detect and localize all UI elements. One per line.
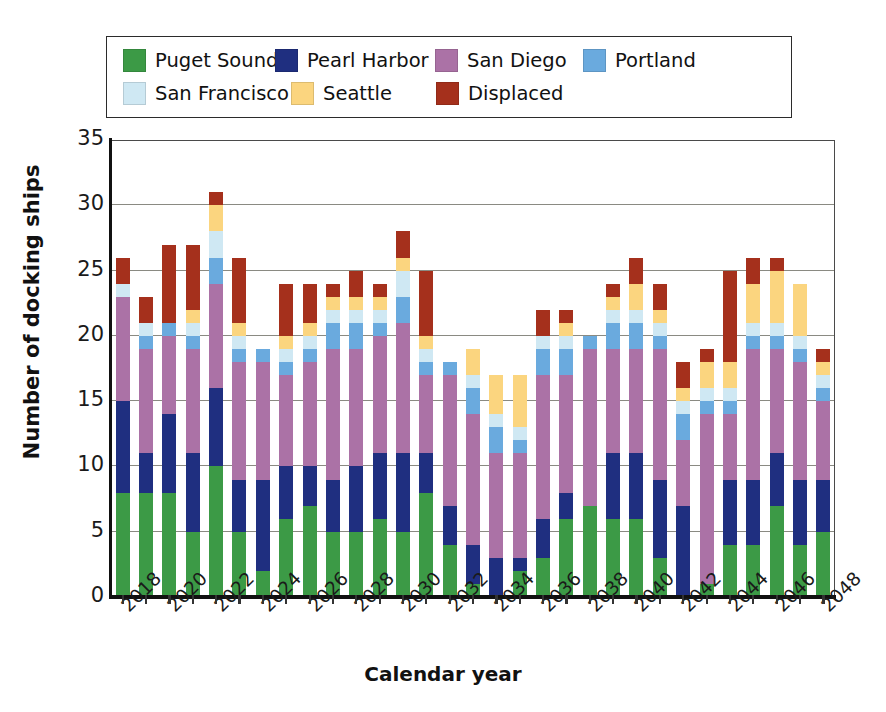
bar-2027[interactable] [326,284,340,597]
legend-item-seattle[interactable]: Seattle [291,82,436,105]
bar-segment-portland [186,336,200,349]
bar-segment-san-diego [653,349,667,480]
bar-segment-san-diego [746,349,760,480]
x-tick-mark [122,595,124,604]
bar-segment-san-francisco [116,284,130,297]
bar-segment-san-francisco [606,310,620,323]
bar-segment-displaced [279,284,293,336]
bar-2037[interactable] [559,310,573,597]
y-tick-label: 5 [60,518,104,542]
bar-2034[interactable] [489,375,503,597]
bar-2043[interactable] [700,349,714,597]
legend-item-puget-sound[interactable]: Puget Sound [123,49,275,72]
bar-2041[interactable] [653,284,667,597]
bar-segment-pearl-harbor [303,466,317,505]
bar-2028[interactable] [349,271,363,597]
x-tick-mark [449,595,451,604]
bar-segment-san-diego [816,401,830,479]
bar-2040[interactable] [629,258,643,597]
bar-segment-san-francisco [676,401,690,414]
y-tick-label: 10 [60,452,104,476]
bar-segment-san-diego [279,375,293,466]
bar-2021[interactable] [186,245,200,597]
bar-2022[interactable] [209,192,223,597]
y-tick-label: 20 [60,322,104,346]
bar-segment-san-diego [209,284,223,388]
bar-2023[interactable] [232,258,246,597]
bar-segment-displaced [139,297,153,323]
bar-2033[interactable] [466,349,480,597]
bar-segment-san-diego [489,453,503,557]
legend-swatch-icon [123,49,146,72]
legend-item-san-francisco[interactable]: San Francisco [123,82,291,105]
x-tick-mark [192,595,194,604]
bar-segment-san-diego [373,336,387,454]
bar-segment-portland [396,297,410,323]
bar-segment-pearl-harbor [653,480,667,558]
bar-2020[interactable] [162,245,176,597]
bar-2032[interactable] [443,362,457,597]
bar-segment-pearl-harbor [606,453,620,518]
bar-segment-san-francisco [419,349,433,362]
bar-segment-displaced [419,271,433,336]
x-tick-mark [425,595,427,604]
bar-2025[interactable] [279,284,293,597]
bar-segment-pearl-harbor [676,506,690,597]
bar-segment-portland [326,323,340,349]
bar-segment-portland [653,336,667,349]
x-tick-mark [262,595,264,604]
bar-segment-pearl-harbor [536,519,550,558]
bar-segment-displaced [816,349,830,362]
legend-label: Puget Sound [155,49,278,72]
legend-item-portland[interactable]: Portland [583,49,696,72]
bar-segment-portland [746,336,760,349]
bar-segment-seattle [816,362,830,375]
legend-item-displaced[interactable]: Displaced [436,82,563,105]
bar-2018[interactable] [116,258,130,597]
x-tick-mark [215,595,217,604]
x-tick-mark [612,595,614,604]
bar-2026[interactable] [303,284,317,597]
bar-2046[interactable] [770,258,784,597]
bar-segment-pearl-harbor [443,506,457,545]
bar-segment-san-francisco [466,375,480,388]
bar-segment-san-francisco [723,388,737,401]
bar-segment-pearl-harbor [186,453,200,531]
x-tick-mark [379,595,381,604]
bar-2029[interactable] [373,284,387,597]
bar-segment-seattle [723,362,737,388]
x-tick-mark [589,595,591,604]
bar-2019[interactable] [139,297,153,597]
bar-2039[interactable] [606,284,620,597]
bar-segment-pearl-harbor [139,453,153,492]
bar-2047[interactable] [793,284,807,597]
x-tick-mark [495,595,497,604]
bar-segment-seattle [653,310,667,323]
bar-2044[interactable] [723,271,737,597]
bar-2030[interactable] [396,231,410,597]
bar-segment-seattle [186,310,200,323]
bar-segment-pearl-harbor [162,414,176,492]
bar-2035[interactable] [513,375,527,597]
chart-legend: Puget SoundPearl HarborSan DiegoPortland… [106,36,792,118]
bar-2038[interactable] [583,336,597,597]
bar-segment-pearl-harbor [723,480,737,545]
bar-2024[interactable] [256,349,270,597]
bar-segment-portland [232,349,246,362]
bar-segment-seattle [606,297,620,310]
bar-2042[interactable] [676,362,690,597]
bar-2045[interactable] [746,258,760,597]
legend-swatch-icon [123,82,146,105]
bar-2036[interactable] [536,310,550,597]
legend-item-san-diego[interactable]: San Diego [435,49,583,72]
legend-item-pearl-harbor[interactable]: Pearl Harbor [275,49,435,72]
bar-segment-pearl-harbor [349,466,363,531]
bar-segment-portland [489,427,503,453]
bar-segment-seattle [513,375,527,427]
bar-segment-displaced [373,284,387,297]
bar-2048[interactable] [816,349,830,597]
bar-2031[interactable] [419,271,433,597]
bar-segment-pearl-harbor [746,480,760,545]
bar-segment-san-francisco [396,271,410,297]
bar-segment-san-diego [536,375,550,519]
